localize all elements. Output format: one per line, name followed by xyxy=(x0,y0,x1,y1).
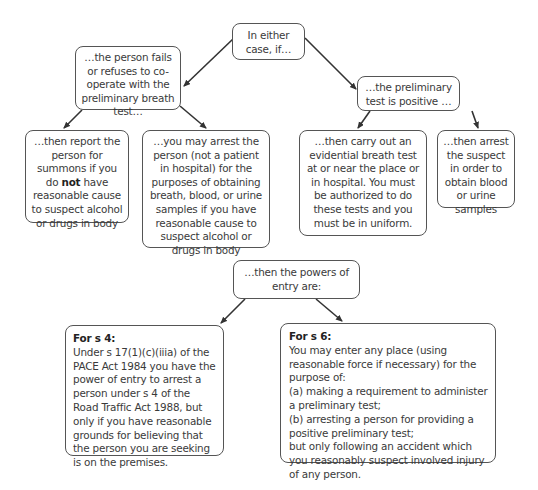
evidential-breath-test-box: …then carry out an evidential breath tes… xyxy=(299,130,427,236)
arrest-for-samples-text: …you may arrest the person (not a patien… xyxy=(150,135,262,256)
fails-to-cooperate-box: …the person fails or refuses to co-opera… xyxy=(75,46,181,110)
fails-to-cooperate-text: …the person fails or refuses to co-opera… xyxy=(82,51,175,117)
section-6-box: For s 6: You may enter any place (using … xyxy=(280,323,496,463)
evidential-breath-test-text: …then carry out an evidential breath tes… xyxy=(307,135,419,229)
root-condition-box: In either case, if… xyxy=(232,23,305,60)
section-4-text: Under s 17(1)(c)(iiia) of the PACE Act 1… xyxy=(73,346,215,468)
arrest-suspect-box: …then arrest the suspect in order to obt… xyxy=(437,130,515,208)
arrest-for-samples-box: …you may arrest the person (not a patien… xyxy=(142,130,270,248)
report-for-summons-box: …then report the person for summons if y… xyxy=(25,130,129,223)
test-positive-text: …the preliminary test is positive … xyxy=(365,81,452,107)
arrest-suspect-text: …then arrest the suspect in order to obt… xyxy=(443,135,508,215)
section-6-title: For s 6: xyxy=(289,330,490,344)
root-condition-text: In either case, if… xyxy=(246,29,292,55)
powers-of-entry-box: …then the powers of entry are: xyxy=(233,260,360,299)
section-4-title: For s 4: xyxy=(73,332,216,346)
section-6-line-3: (b) arresting a person for providing a p… xyxy=(289,413,490,441)
section-6-line-2: (a) making a requirement to administer a… xyxy=(289,385,490,413)
powers-of-entry-text: …then the powers of entry are: xyxy=(244,266,349,292)
section-6-line-4: but only following an accident which you… xyxy=(289,440,490,481)
section-4-box: For s 4: Under s 17(1)(c)(iiia) of the P… xyxy=(65,325,224,456)
test-positive-box: …the preliminary test is positive … xyxy=(357,76,460,111)
section-6-line-1: You may enter any place (using reasonabl… xyxy=(289,344,490,385)
report-text-emphasis: not xyxy=(61,176,80,188)
